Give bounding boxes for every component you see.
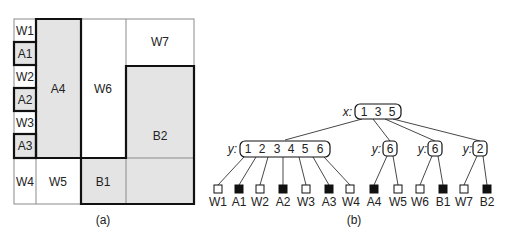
node-key: 1 <box>245 142 252 156</box>
node-axis-label: y: <box>371 142 381 156</box>
panel-b-tree: x: 1 3 5 y: 1 2 3 4 5 6 y: 6 y: 6 <box>209 104 495 227</box>
node-key: 5 <box>302 142 309 156</box>
cell-label-W3: W3 <box>16 116 34 130</box>
root-key: 5 <box>389 105 396 119</box>
leaf-label: W7 <box>455 195 473 209</box>
panel-b-caption: (b) <box>347 213 362 227</box>
cell-label-A4: A4 <box>51 82 66 96</box>
cell-label-A2: A2 <box>18 93 33 107</box>
leaf-marker-empty <box>214 185 222 193</box>
panel-a-caption: (a) <box>96 213 111 227</box>
figure: W1 A1 W2 A2 W3 A3 A4 W6 W7 B2 W4 W5 B1 (… <box>0 0 508 239</box>
leaf-marker-empty <box>394 185 402 193</box>
leaf-label: W5 <box>389 195 407 209</box>
cell-label-W6: W6 <box>94 82 112 96</box>
internal-node: y: 6 <box>371 141 397 156</box>
leaf-marker-empty <box>346 185 354 193</box>
root-axis-label: x: <box>342 105 352 119</box>
node-key: 2 <box>477 142 484 156</box>
cell-label-A3: A3 <box>18 139 33 153</box>
node-key: 2 <box>259 142 266 156</box>
leaf-marker-filled <box>483 185 491 193</box>
cell-label-W2: W2 <box>16 70 34 84</box>
leaf-label: W6 <box>411 195 429 209</box>
root-key: 1 <box>361 105 368 119</box>
cell-label-A1: A1 <box>18 47 33 61</box>
node-axis-label: y: <box>227 142 237 156</box>
node-key: 6 <box>387 142 394 156</box>
leaf-marker-filled <box>325 185 333 193</box>
leaf-label: W1 <box>209 195 227 209</box>
leaf-label: A3 <box>322 195 337 209</box>
leaf-label: B2 <box>480 195 495 209</box>
node-axis-label: y: <box>417 142 427 156</box>
leaf-marker-filled <box>370 185 378 193</box>
node-key: 6 <box>317 142 324 156</box>
node-key: 3 <box>274 142 281 156</box>
leaf-marker-filled <box>235 185 243 193</box>
leaf-nodes: W1 A1 W2 A2 W3 A3 W4 A4 W5 W6 B1 W7 B2 <box>209 185 495 209</box>
leaf-marker-filled <box>279 185 287 193</box>
root-key: 3 <box>375 105 382 119</box>
cell-label-W7: W7 <box>151 35 169 49</box>
cell-label-B1: B1 <box>96 175 111 189</box>
internal-node: y: 6 <box>417 141 442 156</box>
leaf-label: A1 <box>232 195 247 209</box>
leaf-marker-filled <box>439 185 447 193</box>
leaf-label: A2 <box>276 195 291 209</box>
internal-node: y: 2 <box>462 141 487 156</box>
cell-label-B2: B2 <box>153 129 168 143</box>
node-key: 4 <box>288 142 295 156</box>
cell-label-W5: W5 <box>49 175 67 189</box>
leaf-marker-empty <box>416 185 424 193</box>
leaf-marker-empty <box>460 185 468 193</box>
leaf-marker-empty <box>302 185 310 193</box>
leaf-marker-empty <box>256 185 264 193</box>
node-axis-label: y: <box>462 142 472 156</box>
internal-node: y: 1 2 3 4 5 6 <box>227 141 330 157</box>
node-key: 6 <box>432 142 439 156</box>
leaf-label: W4 <box>342 195 360 209</box>
cell-label-W1: W1 <box>16 24 34 38</box>
root-node: x: 1 3 5 <box>342 104 401 119</box>
leaf-label: B1 <box>436 195 451 209</box>
panel-a-partition: W1 A1 W2 A2 W3 A3 A4 W6 W7 B2 W4 W5 B1 (… <box>14 19 194 227</box>
leaf-label: W3 <box>297 195 315 209</box>
cell-label-W4: W4 <box>16 175 34 189</box>
leaf-label: A4 <box>367 195 382 209</box>
leaf-label: W2 <box>251 195 269 209</box>
